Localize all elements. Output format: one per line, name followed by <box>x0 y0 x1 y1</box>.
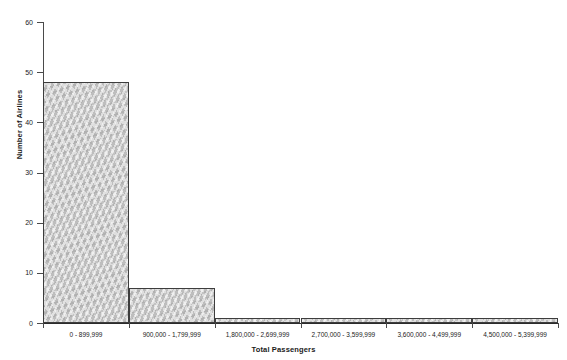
y-tick-label: 20 <box>0 219 33 226</box>
x-tick-mark <box>301 323 302 328</box>
x-tick-label: 900,000 - 1,799,999 <box>129 331 215 339</box>
y-tick-label: 10 <box>0 269 33 276</box>
x-tick-mark <box>43 323 44 328</box>
x-axis-title: Total Passengers <box>0 345 567 354</box>
bar <box>386 318 472 323</box>
histogram-chart: Number of Airlines 0102030405060 0 - 899… <box>0 0 567 360</box>
bar <box>129 288 215 323</box>
y-tick-label: 40 <box>0 119 33 126</box>
y-tick-label: 0 <box>0 320 33 327</box>
bar <box>43 82 129 323</box>
x-tick-mark <box>215 323 216 328</box>
x-tick-label: 4,500,000 - 5,399,999 <box>472 331 558 339</box>
x-tick-mark <box>386 323 387 328</box>
x-tick-mark <box>129 323 130 328</box>
y-tick-label: 50 <box>0 69 33 76</box>
plot-area <box>43 22 558 323</box>
x-tick-label: 1,800,000 - 2,699,999 <box>215 331 301 339</box>
x-tick-mark <box>472 323 473 328</box>
x-tick-label: 0 - 899,999 <box>43 331 129 339</box>
y-tick-label: 60 <box>0 19 33 26</box>
bar <box>301 318 387 323</box>
bar <box>472 318 558 323</box>
bar <box>215 318 301 323</box>
y-tick-label: 30 <box>0 169 33 176</box>
x-tick-label: 3,600,000 - 4,499,999 <box>386 331 472 339</box>
x-tick-mark <box>558 323 559 328</box>
x-tick-label: 2,700,000 - 3,599,999 <box>301 331 387 339</box>
